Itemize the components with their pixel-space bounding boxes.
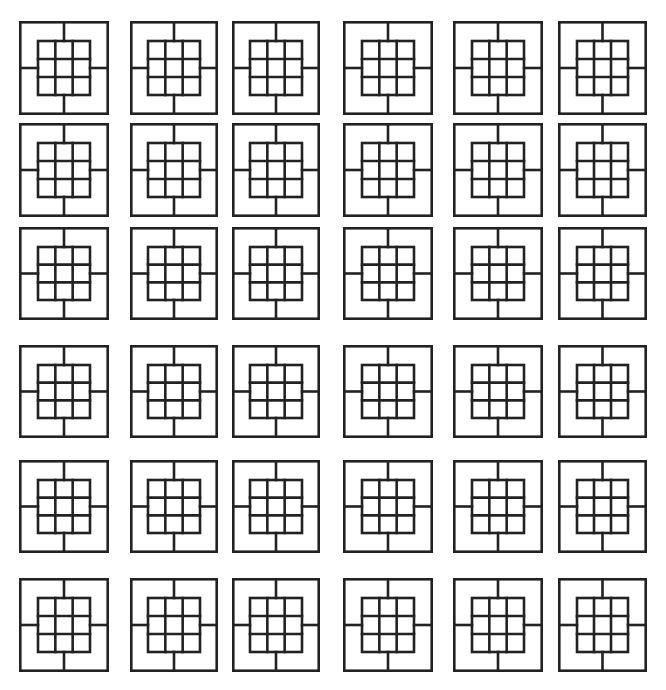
inner-grid-border	[362, 41, 414, 95]
tile-r3-c3	[232, 227, 320, 320]
tile-graphic	[558, 460, 647, 553]
tile-graphic	[19, 460, 109, 553]
tile-r6-c4	[343, 578, 433, 672]
tile-graphic	[19, 578, 109, 672]
tile-r3-c4	[343, 227, 433, 320]
inner-grid-border	[38, 598, 90, 652]
tile-r2-c3	[232, 123, 320, 217]
tile-r1-c4	[343, 21, 433, 115]
tile-r3-c2	[130, 227, 218, 320]
inner-grid-border	[362, 247, 414, 300]
tile-r2-c6	[558, 123, 647, 217]
tile-graphic	[558, 578, 647, 672]
inner-grid-border	[38, 247, 90, 300]
tile-graphic	[453, 460, 543, 553]
inner-grid-border	[250, 41, 302, 95]
tile-graphic	[232, 460, 320, 553]
tile-graphic	[19, 345, 109, 438]
inner-grid-border	[577, 143, 628, 197]
tile-r6-c1	[19, 578, 109, 672]
tile-graphic	[232, 21, 320, 115]
tile-r1-c3	[232, 21, 320, 115]
tile-graphic	[232, 123, 320, 217]
inner-grid-border	[577, 480, 628, 533]
tile-graphic	[343, 21, 433, 115]
inner-grid-border	[362, 598, 414, 652]
tile-r3-c6	[558, 227, 647, 320]
tile-r5-c6	[558, 460, 647, 553]
tile-r4-c3	[232, 345, 320, 438]
tile-r4-c4	[343, 345, 433, 438]
inner-grid-border	[250, 480, 302, 533]
tile-r5-c4	[343, 460, 433, 553]
tile-graphic	[130, 345, 218, 438]
tile-r4-c6	[558, 345, 647, 438]
tile-graphic	[453, 227, 543, 320]
tile-graphic	[343, 578, 433, 672]
inner-grid-border	[250, 247, 302, 300]
tile-r2-c4	[343, 123, 433, 217]
tile-graphic	[558, 21, 647, 115]
inner-grid-border	[577, 41, 628, 95]
inner-grid-border	[38, 365, 90, 418]
tile-r3-c5	[453, 227, 543, 320]
inner-grid-border	[148, 480, 200, 533]
tile-r5-c2	[130, 460, 218, 553]
tile-graphic	[453, 21, 543, 115]
tile-graphic	[453, 578, 543, 672]
tile-graphic	[232, 578, 320, 672]
inner-grid-border	[148, 365, 200, 418]
tile-r1-c5	[453, 21, 543, 115]
tile-r2-c1	[19, 123, 109, 217]
tile-r5-c5	[453, 460, 543, 553]
tile-r4-c2	[130, 345, 218, 438]
tile-graphic	[453, 123, 543, 217]
tile-r6-c6	[558, 578, 647, 672]
inner-grid-border	[148, 41, 200, 95]
inner-grid-border	[472, 247, 524, 300]
tile-r4-c5	[453, 345, 543, 438]
inner-grid-border	[38, 41, 90, 95]
tile-graphic	[130, 227, 218, 320]
tile-r5-c1	[19, 460, 109, 553]
inner-grid-border	[362, 480, 414, 533]
inner-grid-border	[472, 365, 524, 418]
tile-graphic	[19, 21, 109, 115]
tile-graphic	[558, 123, 647, 217]
tile-r1-c1	[19, 21, 109, 115]
tile-graphic	[130, 460, 218, 553]
tile-graphic	[343, 460, 433, 553]
tile-graphic	[232, 345, 320, 438]
tile-graphic	[19, 123, 109, 217]
tile-r2-c5	[453, 123, 543, 217]
inner-grid-border	[250, 143, 302, 197]
tile-graphic	[558, 345, 647, 438]
tile-r6-c3	[232, 578, 320, 672]
tile-graphic	[130, 123, 218, 217]
inner-grid-border	[472, 41, 524, 95]
inner-grid-border	[472, 480, 524, 533]
tile-pattern-canvas	[0, 0, 666, 690]
inner-grid-border	[362, 365, 414, 418]
inner-grid-border	[148, 143, 200, 197]
tile-graphic	[343, 345, 433, 438]
inner-grid-border	[148, 598, 200, 652]
inner-grid-border	[250, 598, 302, 652]
tile-graphic	[343, 123, 433, 217]
inner-grid-border	[362, 143, 414, 197]
tile-graphic	[130, 578, 218, 672]
tile-r4-c1	[19, 345, 109, 438]
tile-graphic	[453, 345, 543, 438]
tile-r2-c2	[130, 123, 218, 217]
inner-grid-border	[38, 480, 90, 533]
inner-grid-border	[472, 598, 524, 652]
tile-r3-c1	[19, 227, 109, 320]
tile-graphic	[232, 227, 320, 320]
tile-graphic	[343, 227, 433, 320]
tile-r1-c6	[558, 21, 647, 115]
inner-grid-border	[38, 143, 90, 197]
tile-r5-c3	[232, 460, 320, 553]
inner-grid-border	[472, 143, 524, 197]
tile-r1-c2	[130, 21, 218, 115]
inner-grid-border	[148, 247, 200, 300]
